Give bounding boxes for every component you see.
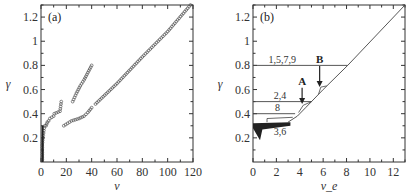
x-tick-label: 4 [297, 165, 303, 179]
chart-figure: 0204060801001200.20.40.60.811.2νγ(a)0246… [0, 0, 409, 195]
y-tick-label: 0.2 [23, 131, 38, 145]
x-tick-label: 20 [60, 165, 72, 179]
x-tick-label: 100 [159, 165, 177, 179]
y-tick-label: 1 [32, 34, 38, 48]
plot-frame [41, 5, 193, 162]
panel-label: (a) [48, 10, 61, 24]
x-tick-label: 80 [136, 165, 148, 179]
dense-cluster [42, 126, 44, 162]
x-tick-label: 12 [387, 165, 399, 179]
panel-a: 0204060801001200.20.40.60.811.2νγ(a) [6, 4, 202, 193]
y-tick-label: 1 [244, 34, 250, 48]
x-tick-label: 8 [344, 165, 350, 179]
x-axis-label: ν_e [321, 179, 338, 193]
y-tick-label: 1.2 [235, 10, 250, 24]
data-point [45, 123, 48, 126]
y-tick-label: 0.8 [23, 58, 38, 72]
annotation-label: 2,4 [274, 90, 287, 101]
x-tick-label: 6 [320, 165, 326, 179]
panel-label: (b) [260, 10, 274, 24]
y-axis-label: γ [218, 77, 223, 91]
annotation-label: 3,6 [274, 126, 287, 137]
y-tick-label: 0.4 [23, 107, 38, 121]
y-tick-label: 0.8 [235, 58, 250, 72]
x-tick-label: 0 [250, 165, 256, 179]
x-tick-label: 40 [86, 165, 98, 179]
y-tick-label: 1.2 [23, 10, 38, 24]
annotation-label: 8 [275, 102, 280, 113]
y-axis-label: γ [6, 77, 11, 91]
panel-b: 0246810120.20.40.60.811.2ν_eγ(b)1,5,7,92… [218, 5, 405, 193]
y-tick-label: 0.4 [235, 107, 250, 121]
x-tick-label: 60 [111, 165, 123, 179]
x-tick-label: 2 [273, 165, 279, 179]
y-tick-label: 0.6 [23, 83, 38, 97]
y-tick-label: 0.2 [235, 131, 250, 145]
annotation-label: 1,5,7,9 [268, 54, 296, 65]
x-tick-label: 10 [364, 165, 376, 179]
annotation-label: B [316, 53, 324, 65]
annotation-label: A [298, 75, 306, 87]
y-tick-label: 0.6 [235, 83, 250, 97]
x-tick-label: 0 [38, 165, 44, 179]
x-axis-label: ν [114, 179, 120, 193]
x-tick-label: 120 [184, 165, 202, 179]
